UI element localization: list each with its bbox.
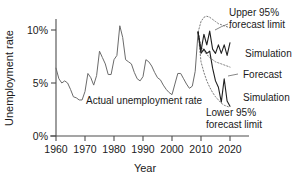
annotation-lower-limit: Lower 95% forecast limit	[206, 107, 262, 130]
chart-canvas: 10% 5% 0% 1960 1970 1980 1990 2000 2010 …	[0, 0, 303, 178]
x-tick-label-1980: 1980	[102, 143, 126, 155]
y-tick-label-0: 0%	[33, 130, 48, 142]
y-axis-title: Unemployment rate	[3, 30, 15, 126]
x-tick-label-1970: 1970	[73, 143, 97, 155]
series-group	[56, 16, 230, 107]
annotation-actual-rate: Actual unemployment rate	[86, 95, 203, 106]
series-upper-95-limit	[198, 16, 230, 32]
annotation-simulation-upper: Simulation	[245, 48, 292, 59]
unemployment-forecast-chart: 10% 5% 0% 1960 1970 1980 1990 2000 2010 …	[0, 0, 303, 178]
annotation-lower-limit-line1: Lower 95%	[206, 107, 256, 118]
x-tick-label-1960: 1960	[44, 143, 68, 155]
leader-forecast	[228, 74, 238, 76]
y-tick-labels: 10% 5% 0%	[27, 24, 48, 142]
series-actual-unemployment-rate	[56, 26, 198, 100]
annotation-forecast: Forecast	[243, 69, 282, 80]
annotation-upper-limit-line2: forecast limit	[229, 19, 285, 30]
annotation-lower-limit-line2: forecast limit	[206, 119, 262, 130]
y-tick-label-10: 10%	[27, 24, 48, 36]
annotation-upper-limit: Upper 95% forecast limit	[229, 7, 285, 30]
annotation-actual-rate-text: Actual unemployment rate	[86, 95, 203, 106]
x-tick-label-2000: 2000	[160, 143, 184, 155]
annotation-upper-limit-line1: Upper 95%	[229, 7, 279, 18]
y-tick-label-5: 5%	[33, 77, 48, 89]
annotation-leaders	[215, 24, 238, 76]
annotation-simulation-upper-text: Simulation	[245, 48, 292, 59]
annotation-simulation-lower: Simulation	[243, 92, 290, 103]
x-axis-title: Year	[134, 162, 157, 174]
x-tick-label-2010: 2010	[189, 143, 213, 155]
x-tick-label-2020: 2020	[218, 143, 242, 155]
annotation-simulation-lower-text: Simulation	[243, 92, 290, 103]
x-tick-labels: 1960 1970 1980 1990 2000 2010 2020	[44, 143, 242, 155]
annotation-forecast-text: Forecast	[243, 69, 282, 80]
x-tick-label-1990: 1990	[131, 143, 155, 155]
series-simulation-upper	[198, 31, 230, 55]
